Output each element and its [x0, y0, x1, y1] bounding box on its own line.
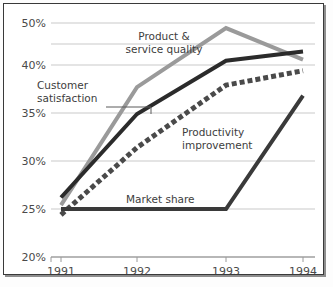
series-label-product-service-quality-line2: service quality: [126, 43, 203, 55]
x-axis-tick-1994: 1994: [289, 265, 317, 274]
y-axis-tick-35: 35%: [22, 107, 46, 120]
chart-page: 20%25%30%35%40%50%1991199219931994Produc…: [0, 0, 333, 287]
x-axis-tick-1993: 1993: [212, 265, 240, 274]
x-axis-tick-1991: 1991: [47, 265, 75, 274]
y-axis-tick-25: 25%: [22, 203, 46, 216]
y-axis-tick-20: 20%: [22, 251, 46, 264]
series-label-market-share: Market share: [126, 193, 195, 205]
series-label-customer-satisfaction: Customer: [37, 79, 89, 91]
series-line-1: [61, 52, 303, 198]
series-label-product-service-quality: Product &: [138, 30, 189, 42]
y-axis-tick-50: 50%: [22, 17, 46, 30]
y-axis-tick-40: 40%: [22, 59, 46, 72]
series-label-customer-satisfaction-line2: satisfaction: [37, 92, 97, 104]
x-axis-tick-1992: 1992: [123, 265, 151, 274]
y-axis-tick-30: 30%: [22, 155, 46, 168]
line-chart: 20%25%30%35%40%50%1991199219931994Produc…: [4, 4, 323, 274]
chart-frame: 20%25%30%35%40%50%1991199219931994Produc…: [3, 3, 324, 275]
series-label-productivity-improvement-line2: improvement: [182, 139, 252, 151]
series-label-productivity-improvement: Productivity: [182, 126, 244, 138]
